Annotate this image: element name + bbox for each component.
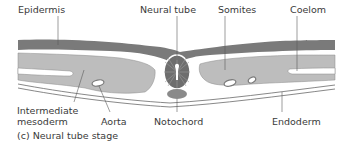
label-neural-tube: Neural tube [140,4,196,15]
label-intermediate-mesoderm-line1: Intermediate [17,105,78,116]
figure-caption: (c) Neural tube stage [17,130,118,141]
label-endoderm: Endoderm [272,116,321,127]
label-coelom: Coelom [290,4,326,15]
notochord [167,89,187,99]
label-somites: Somites [218,4,256,15]
label-epidermis: Epidermis [18,4,65,15]
right-coelom-cavity [288,68,335,74]
label-notochord: Notochord [154,116,203,127]
label-aorta: Aorta [101,116,127,127]
label-intermediate-mesoderm-line2: mesoderm [17,116,68,127]
